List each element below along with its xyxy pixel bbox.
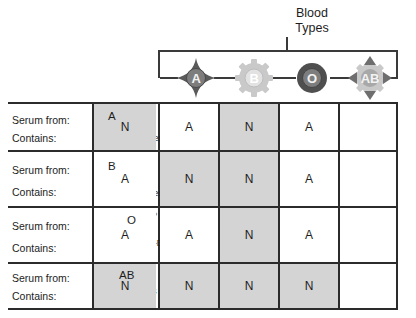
result-cell-o-o[interactable]: N [220, 208, 278, 262]
result-cell-a-a[interactable]: N [94, 104, 156, 150]
serum-from-label-o: Serum from: [12, 220, 70, 232]
bracket-top-rail [158, 50, 398, 52]
serum-type-letter-ab: AB [119, 269, 134, 281]
blood-type-icon-ab[interactable]: AB [348, 56, 392, 100]
contains-label-ab: Contains: [12, 290, 56, 302]
blood-type-label-ab: AB [348, 56, 392, 100]
blood-type-icon-a[interactable]: A [174, 56, 218, 100]
blood-type-label-b: B [232, 56, 276, 100]
result-cell-o-b[interactable]: A [160, 208, 218, 262]
contains-label-b: Contains: [12, 186, 56, 198]
blood-compatibility-table: Serum from: Contains: A Anti-B Antibodie… [8, 102, 398, 310]
result-cell-ab-o[interactable]: N [220, 264, 278, 308]
result-cell-o-a[interactable]: A [94, 208, 156, 262]
title-stem-line [286, 37, 288, 51]
blood-types-header: Blood Types A [0, 0, 416, 100]
serum-from-label-b: Serum from: [12, 164, 70, 176]
contains-label-o: Contains: [12, 242, 56, 254]
serum-type-letter-o: O [127, 214, 136, 226]
result-cell-b-b[interactable]: N [160, 152, 218, 206]
table-vline-right [396, 102, 398, 310]
serum-type-letter-b: B [108, 160, 116, 172]
bracket-left-leg [158, 50, 160, 78]
contains-label-a: Contains: [12, 132, 56, 144]
result-cell-a-b[interactable]: A [160, 104, 218, 150]
blood-type-label-a: A [174, 56, 218, 100]
page-title: Blood Types [272, 6, 352, 36]
result-cell-b-ab[interactable]: A [280, 152, 338, 206]
blood-type-label-o: O [290, 56, 334, 100]
result-cell-a-ab[interactable]: A [280, 104, 338, 150]
serum-from-label-a: Serum from: [12, 114, 70, 126]
result-cell-ab-ab[interactable]: N [280, 264, 338, 308]
result-cell-b-o[interactable]: N [220, 152, 278, 206]
result-cell-b-a[interactable]: A [94, 152, 156, 206]
table-vline-col3 [338, 102, 340, 310]
result-cell-ab-b[interactable]: N [160, 264, 218, 308]
blood-type-icon-b[interactable]: B [232, 56, 276, 100]
serum-from-label-ab: Serum from: [12, 272, 70, 284]
blood-type-icon-o[interactable]: O [290, 56, 334, 100]
result-cell-o-ab[interactable]: A [280, 208, 338, 262]
result-cell-a-o[interactable]: N [220, 104, 278, 150]
serum-type-letter-a: A [108, 110, 116, 122]
bracket-right-leg [396, 50, 398, 78]
